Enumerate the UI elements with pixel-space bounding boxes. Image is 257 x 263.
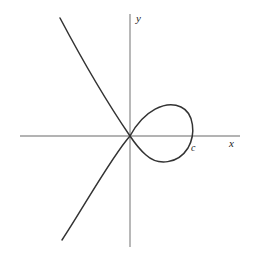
x-axis-label: x: [228, 137, 234, 149]
curve-loop: [130, 105, 193, 162]
curve-upper-left-branch: [60, 18, 130, 136]
figure-canvas: y x c: [0, 0, 257, 263]
loop-x-intercept-label: c: [191, 142, 196, 153]
curve-diagram: y x c: [0, 0, 257, 263]
curve-lower-left-branch: [62, 136, 130, 240]
y-axis-label: y: [135, 12, 141, 24]
